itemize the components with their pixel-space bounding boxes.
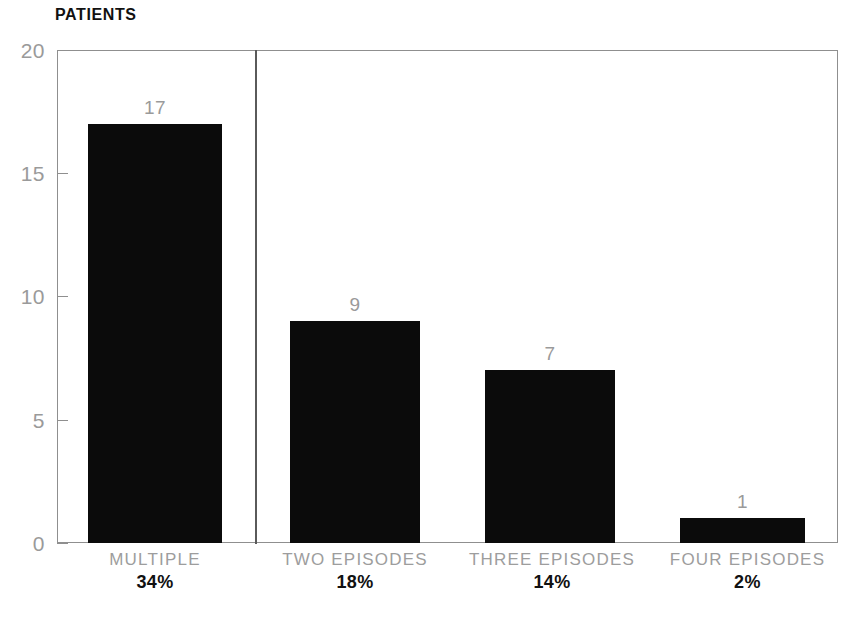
x-axis-label-three-episodes: THREE EPISODES 14% [452, 550, 652, 594]
y-tick-mark-5 [57, 420, 68, 421]
y-tick-label-5: 5 [0, 410, 45, 431]
x-category-label: TWO EPISODES [260, 550, 450, 570]
bar-value-label-two-episodes: 9 [290, 295, 420, 314]
bar-two-episodes [290, 321, 420, 543]
y-tick-mark-20 [57, 50, 68, 51]
y-tick-label-20: 20 [0, 40, 45, 61]
y-tick-mark-15 [57, 173, 68, 174]
y-tick-mark-10 [57, 296, 68, 297]
bar-value-label-multiple: 17 [88, 98, 222, 117]
x-axis-label-four-episodes: FOUR EPISODES 2% [650, 550, 845, 594]
bar-value-label-three-episodes: 7 [485, 344, 615, 363]
x-percent-label: 18% [260, 570, 450, 594]
x-category-label: FOUR EPISODES [650, 550, 845, 570]
y-tick-label-10: 10 [0, 286, 45, 307]
page-title: PATIENTS [55, 6, 137, 24]
bar-multiple [88, 124, 222, 543]
x-category-label: THREE EPISODES [452, 550, 652, 570]
x-percent-label: 2% [650, 570, 845, 594]
x-percent-label: 34% [65, 570, 245, 594]
bar-three-episodes [485, 370, 615, 543]
y-tick-label-0: 0 [0, 533, 45, 554]
x-percent-label: 14% [452, 570, 652, 594]
patients-bar-chart: PATIENTS 20 15 10 5 0 17 9 7 1 MULTIPLE … [0, 0, 853, 618]
x-category-label: MULTIPLE [65, 550, 245, 570]
y-tick-label-15: 15 [0, 163, 45, 184]
group-divider-line [255, 50, 257, 544]
x-axis-label-multiple: MULTIPLE 34% [65, 550, 245, 594]
bar-value-label-four-episodes: 1 [680, 492, 805, 511]
bar-four-episodes [680, 518, 805, 543]
y-tick-mark-0 [57, 543, 68, 544]
x-axis-label-two-episodes: TWO EPISODES 18% [260, 550, 450, 594]
